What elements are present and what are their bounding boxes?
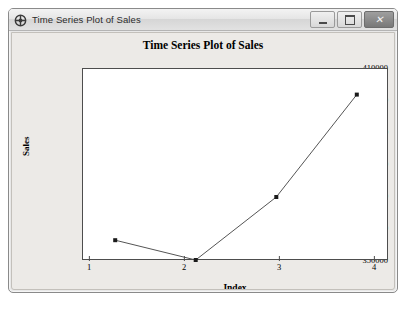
window-titlebar[interactable]: Time Series Plot of Sales ✕ [9, 9, 397, 31]
close-icon: ✕ [375, 15, 383, 25]
screenshot-root: Time Series Plot of Sales ✕ Time Series … [0, 0, 416, 313]
plot-frame [82, 68, 388, 260]
window-client-area: Time Series Plot of Sales Sales Index 35… [11, 32, 395, 290]
x-axis-label: Index [82, 283, 388, 290]
x-tick: 2 [182, 262, 186, 272]
minimize-button[interactable] [310, 11, 335, 28]
chart-title: Time Series Plot of Sales [12, 39, 394, 51]
x-tick: 3 [277, 262, 281, 272]
close-button[interactable]: ✕ [364, 11, 394, 28]
x-tick: 1 [87, 262, 91, 272]
plot-window: Time Series Plot of Sales ✕ Time Series … [8, 8, 398, 293]
data-series-line [83, 69, 389, 261]
x-tick: 4 [372, 262, 376, 272]
maximize-button[interactable] [337, 11, 362, 28]
minitab-window-icon [14, 13, 27, 26]
time-series-chart: Time Series Plot of Sales Sales Index 35… [12, 33, 394, 289]
window-controls: ✕ [310, 11, 394, 28]
y-axis-label: Sales [21, 136, 31, 156]
window-title: Time Series Plot of Sales [32, 14, 141, 25]
